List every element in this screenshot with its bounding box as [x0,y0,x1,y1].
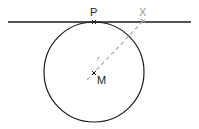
label-p: P [90,6,97,18]
label-r: r [97,54,100,63]
label-m: M [97,74,106,86]
label-x: X [139,6,147,18]
geometry-diagram: P X M r [0,0,199,129]
center-m-marker [92,71,96,75]
